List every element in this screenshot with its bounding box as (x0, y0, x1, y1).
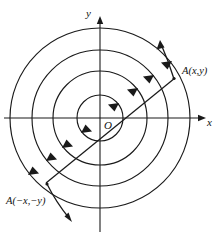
direction-arrow-circle-2-ll (62, 140, 73, 149)
point-marker-a-neg (45, 182, 48, 185)
x-axis-label: x (207, 117, 212, 128)
y-axis-arrowhead (97, 16, 103, 24)
outer-tangent-arrow-upper (161, 44, 174, 79)
direction-arrow-circle-3-ll (46, 153, 57, 162)
direction-arrows-upper-right (108, 61, 172, 112)
direction-arrows-lower-left (28, 125, 92, 176)
direction-arrow-circle-1-ur (108, 103, 119, 112)
outer-tangent-arrow-upper-group (157, 40, 175, 79)
point-marker-a (172, 77, 175, 80)
outer-tangent-arrow-lower-group (47, 184, 72, 222)
figure-canvas: y x O A(x,y) A(−x,−y) (0, 0, 222, 235)
direction-arrow-circle-2-ur (127, 88, 138, 97)
y-axis-label: y (86, 8, 91, 19)
point-label-a-negative: A(−x,−y) (6, 196, 46, 207)
point-label-a: A(x,y) (182, 66, 207, 77)
direction-arrow-circle-3-ur (143, 75, 154, 84)
direction-arrow-circle-1-ll (81, 125, 92, 134)
direction-arrow-circle-4-ll (28, 167, 39, 176)
origin-label: O (104, 120, 112, 131)
x-axis-arrowhead (198, 115, 206, 121)
